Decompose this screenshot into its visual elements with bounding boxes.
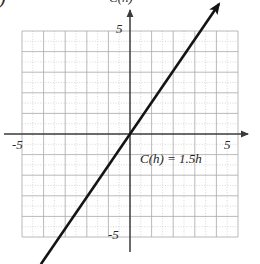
y-tick-label-negative: -5 [108, 228, 119, 241]
coordinate-plane [0, 0, 260, 264]
graph-figure: ) C(h) 5 -5 -5 5 C(h) = 1.5h [0, 0, 260, 264]
x-tick-label-negative: -5 [12, 138, 23, 151]
part-label: ) [0, 0, 6, 8]
y-axis-label: C(h) [109, 0, 133, 4]
equation-annotation: C(h) = 1.5h [140, 152, 202, 165]
y-tick-label-positive: 5 [116, 22, 123, 35]
x-tick-label-positive: 5 [224, 138, 231, 151]
